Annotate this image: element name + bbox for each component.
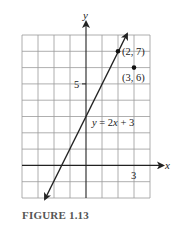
tick-label-y5: 5 xyxy=(74,79,79,90)
line-y-2x-3 xyxy=(86,34,127,117)
x-axis-label: x xyxy=(164,159,170,171)
line-equation-label: y = 2x + 3 xyxy=(91,117,134,128)
tick-label-x3: 3 xyxy=(131,170,136,181)
figure-caption: FIGURE 1.13 xyxy=(22,209,89,221)
point-label-3-6: (3, 6) xyxy=(122,72,145,84)
line-y-2x-3-lower xyxy=(45,117,86,200)
point-2-7 xyxy=(116,49,121,54)
y-axis-label: y xyxy=(82,9,88,21)
graph: y x 5 3 (2, 7) (3, 6) y = 2x + 3 xyxy=(0,0,182,233)
point-3-6 xyxy=(132,65,137,70)
point-label-2-7: (2, 7) xyxy=(122,46,145,58)
